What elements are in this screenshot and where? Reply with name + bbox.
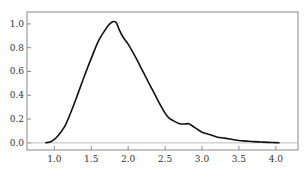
x-axis: 1.01.52.02.53.03.54.0 [47, 146, 283, 164]
plot-frame [27, 12, 298, 150]
y-tick-label: 1.0 [10, 19, 25, 29]
x-tick-label: 1.5 [84, 154, 99, 164]
x-tick-label: 2.5 [158, 154, 173, 164]
x-tick-label: 4.0 [269, 154, 284, 164]
x-tick-label: 1.0 [47, 154, 62, 164]
x-tick-label: 3.0 [195, 154, 210, 164]
x-tick-label: 3.5 [232, 154, 247, 164]
y-tick-label: 0.0 [10, 138, 25, 148]
x-tick-label: 2.0 [121, 154, 136, 164]
y-tick-label: 0.6 [10, 66, 25, 76]
density-line [45, 21, 279, 142]
y-tick-label: 0.8 [10, 43, 25, 53]
y-tick-label: 0.4 [10, 90, 25, 100]
y-tick-label: 0.2 [10, 114, 24, 124]
y-axis: 0.00.20.40.60.81.0 [10, 19, 31, 148]
density-chart: 1.01.52.02.53.03.54.0 0.00.20.40.60.81.0 [0, 0, 308, 171]
